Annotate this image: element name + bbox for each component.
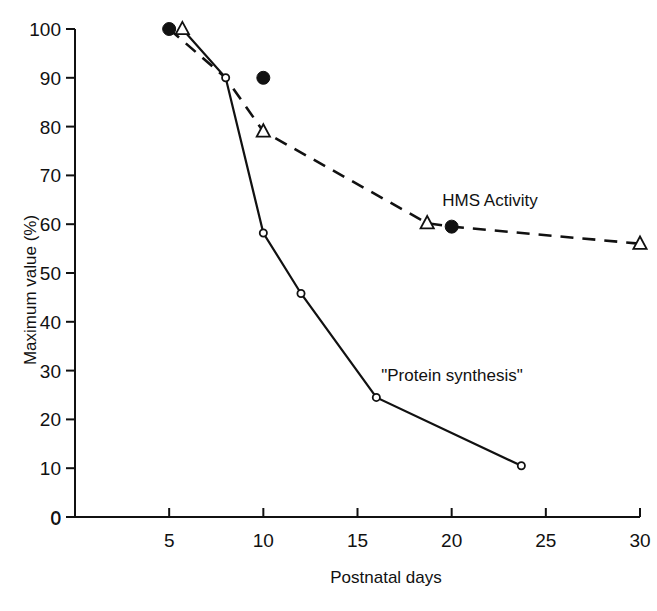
x-tick-label: 10 bbox=[253, 530, 274, 551]
series-line-1 bbox=[182, 29, 521, 466]
axis-frame bbox=[75, 29, 640, 517]
data-point-marker bbox=[222, 74, 229, 81]
y-tick-label: 20 bbox=[40, 409, 61, 430]
x-tick-label: 15 bbox=[347, 530, 368, 551]
y-tick-label: 40 bbox=[40, 312, 61, 333]
markers-group bbox=[163, 22, 647, 470]
annotation-protein-synthesis: "Protein synthesis" bbox=[381, 366, 523, 385]
x-axis-title: Postnatal days bbox=[330, 568, 442, 587]
data-point-marker bbox=[297, 290, 304, 297]
y-tick-label: 80 bbox=[40, 117, 61, 138]
x-tick-label: 30 bbox=[629, 530, 650, 551]
y-tick-label: 30 bbox=[40, 361, 61, 382]
data-point-marker bbox=[518, 462, 525, 469]
data-point-marker bbox=[163, 23, 176, 36]
x-tick-label: 20 bbox=[441, 530, 462, 551]
series-group bbox=[169, 29, 640, 466]
y-tick-label: 50 bbox=[40, 263, 61, 284]
y-tick-label: 60 bbox=[40, 214, 61, 235]
data-point-marker bbox=[260, 229, 267, 236]
data-point-marker bbox=[176, 22, 189, 34]
annotation-hms-activity: HMS Activity bbox=[442, 191, 538, 210]
axes-group bbox=[75, 29, 640, 517]
y-tick-label: 100 bbox=[29, 19, 61, 40]
x-tick-label: 5 bbox=[164, 530, 175, 551]
y-axis-title: Maximum value (%) bbox=[21, 215, 40, 365]
tick-labels-group: 0102030405060708090100051015202530 bbox=[29, 19, 650, 551]
x-tick-label: 25 bbox=[535, 530, 556, 551]
data-point-marker bbox=[445, 220, 458, 233]
y-tick-label: 10 bbox=[40, 458, 61, 479]
ticks-group bbox=[66, 29, 640, 517]
data-point-marker bbox=[421, 216, 434, 228]
y-tick-label: 90 bbox=[40, 68, 61, 89]
hms-point-day10-filled bbox=[257, 71, 270, 84]
y-tick-label: 70 bbox=[40, 165, 61, 186]
chart-figure: 0102030405060708090100051015202530 Postn… bbox=[0, 0, 657, 611]
data-point-marker bbox=[373, 394, 380, 401]
x-tick-label: 0 bbox=[50, 508, 61, 529]
chart-plot-area: 0102030405060708090100051015202530 Postn… bbox=[0, 0, 657, 611]
